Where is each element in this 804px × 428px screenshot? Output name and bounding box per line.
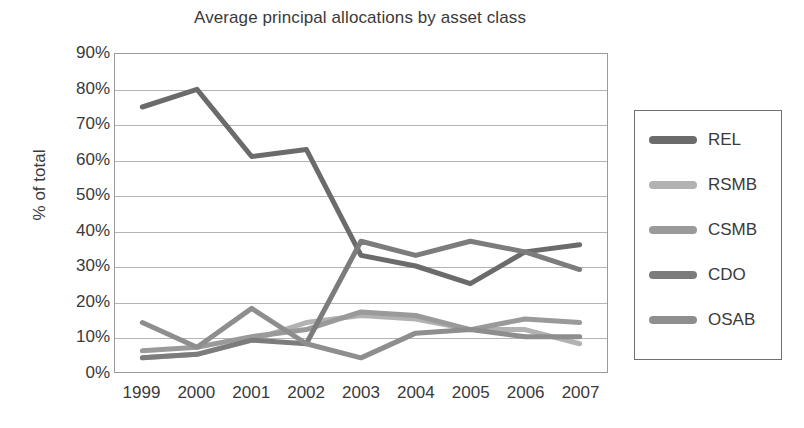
y-axis-tick: 40%	[44, 222, 110, 239]
x-axis-tick: 2002	[278, 383, 334, 403]
y-axis-tick: 10%	[44, 328, 110, 345]
y-axis-tick: 30%	[44, 257, 110, 274]
y-axis-tick: 70%	[44, 115, 110, 132]
x-axis-tick: 2004	[388, 383, 444, 403]
legend-label: RSMB	[708, 175, 757, 195]
y-axis-tick: 90%	[44, 44, 110, 61]
legend-item-rsmb[interactable]: RSMB	[649, 172, 771, 198]
legend-label: REL	[708, 130, 741, 150]
chart-figure: Average principal allocations by asset c…	[0, 0, 804, 428]
y-axis-tick: 20%	[44, 293, 110, 310]
y-axis-tick: 80%	[44, 80, 110, 97]
legend-label: CSMB	[708, 220, 757, 240]
legend-swatch-icon	[649, 226, 697, 234]
legend-label: OSAB	[708, 310, 755, 330]
x-axis-tick: 2006	[498, 383, 554, 403]
legend-swatch-icon	[649, 136, 697, 144]
legend-swatch-icon	[649, 271, 697, 279]
plot-area	[114, 53, 608, 373]
series-lines	[115, 54, 607, 372]
y-axis-tick: 60%	[44, 151, 110, 168]
chart-title: Average principal allocations by asset c…	[120, 8, 600, 28]
x-axis-tick: 2000	[168, 383, 224, 403]
y-axis-tick: 50%	[44, 186, 110, 203]
x-axis-tick: 2007	[553, 383, 609, 403]
legend-swatch-icon	[649, 316, 697, 324]
x-axis-tick-labels: 199920002001200220032004200520062007	[114, 383, 608, 413]
legend-item-cdo[interactable]: CDO	[649, 262, 771, 288]
series-line-rel	[142, 89, 579, 283]
legend-label: CDO	[708, 265, 746, 285]
legend-item-osab[interactable]: OSAB	[649, 307, 771, 333]
x-axis-tick: 1999	[113, 383, 169, 403]
x-axis-tick: 2003	[333, 383, 389, 403]
x-axis-tick: 2001	[223, 383, 279, 403]
legend: RELRSMBCSMBCDOOSAB	[634, 110, 782, 360]
x-axis-tick: 2005	[443, 383, 499, 403]
legend-item-rel[interactable]: REL	[649, 127, 771, 153]
y-axis-tick-labels: 90%80%70%60%50%40%30%20%10%0%	[44, 38, 110, 388]
y-axis-tick: 0%	[44, 364, 110, 381]
legend-swatch-icon	[649, 181, 697, 189]
legend-item-csmb[interactable]: CSMB	[649, 217, 771, 243]
